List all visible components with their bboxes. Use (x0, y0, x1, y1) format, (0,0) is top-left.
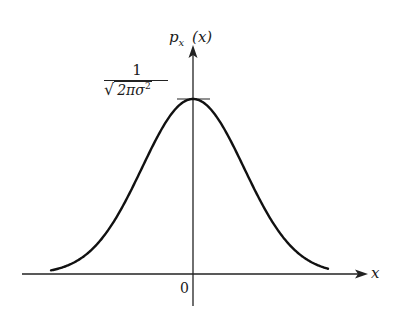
x-axis-label: x (371, 264, 379, 282)
peak-value-numerator: 1 (107, 61, 167, 79)
y-axis-label: px (x) (169, 28, 212, 48)
origin-label: 0 (180, 280, 189, 296)
gaussian-plot (0, 0, 393, 325)
peak-value-denominator: √2πσ2 (104, 80, 152, 99)
gaussian-curve (51, 99, 328, 270)
